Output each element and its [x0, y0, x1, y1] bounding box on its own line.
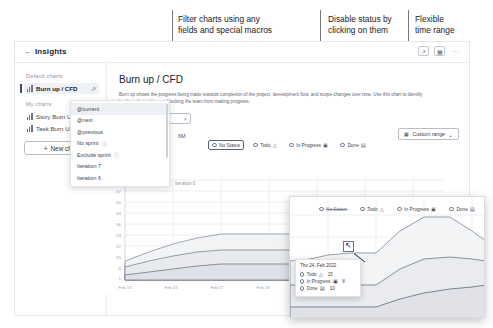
dropdown-item-iteration-7[interactable]: Iteration 7: [71, 161, 169, 173]
svg-text:43: 43: [116, 211, 121, 216]
inset-legend-item-done[interactable]: Done ▤: [446, 205, 478, 213]
tooltip-row-todo: Todo △ 15: [300, 271, 356, 278]
table-view-icon[interactable]: ▦: [434, 46, 445, 56]
legend-dot-icon: [300, 286, 304, 290]
annotation-range-line1: Flexible: [415, 14, 485, 25]
legend-label: Done: [347, 143, 358, 148]
tooltip-pattern-icon: ▤: [320, 286, 325, 291]
bar-chart-icon: [27, 86, 33, 92]
external-link-icon[interactable]: ↗: [91, 86, 96, 92]
legend-dot-icon: [253, 143, 258, 148]
legend-dot-icon: [397, 207, 402, 212]
svg-text:15: 15: [116, 255, 121, 260]
tooltip-label: Todo: [307, 272, 317, 277]
chart-y-ticks: 64 57 50 43 36 29 22 15 8 1: [116, 178, 121, 281]
filter-row: ▼ sprint 48 ×: [119, 113, 459, 124]
clear-filter-icon[interactable]: ×: [184, 116, 187, 122]
legend-pattern-icon: ▤: [470, 207, 475, 212]
annotation-filter: Filter charts using any fields and speci…: [178, 14, 306, 36]
back-to-insights[interactable]: ← Insights: [24, 47, 66, 56]
info-icon[interactable]: ⓘ: [102, 140, 107, 147]
inset-legend-item-in-progress[interactable]: In Progress ▣: [394, 205, 439, 213]
custom-range-button[interactable]: ▦ Custom range ⌄: [398, 128, 459, 140]
magnified-chart-inset[interactable]: No Status Todo △ In Progress ▣ Done ▤ ↖ …: [289, 196, 485, 318]
svg-text:50: 50: [116, 200, 121, 205]
annotation-range: Flexible time range: [415, 14, 485, 36]
chart-view-icon[interactable]: ↗: [418, 46, 429, 56]
inset-status-legend: No Status Todo △ In Progress ▣ Done ▤: [316, 205, 478, 213]
back-arrow-icon: ←: [24, 47, 32, 56]
legend-dot-icon: [300, 279, 304, 283]
more-options-icon[interactable]: ···: [450, 46, 461, 56]
legend-pattern-icon: ▣: [323, 143, 328, 148]
svg-text:Feb 18: Feb 18: [256, 285, 270, 290]
chevron-down-icon: ⌄: [448, 131, 453, 138]
tooltip-label: Done: [307, 286, 318, 291]
annotation-filter-line1: Filter charts using any: [178, 14, 306, 25]
legend-label: No Status: [219, 143, 240, 148]
legend-item-todo[interactable]: Todo △: [250, 141, 280, 149]
tooltip-value: 10: [330, 286, 335, 291]
annotation-range-line2: time range: [415, 25, 485, 36]
annotation-status-line1: Disable status by: [328, 14, 420, 25]
sidebar-item-label: Burn up / CFD: [36, 85, 78, 92]
app-topbar: ← Insights ↗ ▦ ···: [15, 42, 469, 63]
legend-dot-icon: [340, 143, 345, 148]
bar-chart-icon: [27, 114, 33, 120]
tooltip-pattern-icon: ▣: [333, 279, 338, 284]
calendar-icon: ▦: [404, 131, 409, 137]
legend-dot-icon: [449, 207, 454, 212]
legend-item-done[interactable]: Done ▤: [337, 141, 369, 149]
dropdown-item-label: Iteration 7: [77, 163, 101, 169]
inset-legend-item-todo[interactable]: Todo △: [357, 205, 387, 213]
legend-label: In Progress: [296, 143, 321, 148]
dropdown-item-label: Exclude sprint: [77, 152, 111, 158]
svg-text:57: 57: [116, 189, 121, 194]
time-range-6m[interactable]: 6M: [175, 130, 189, 141]
iteration-label: Iteration 6: [175, 181, 196, 186]
legend-label: Done: [456, 207, 467, 212]
tooltip-row-done: Done ▤ 10: [300, 285, 356, 292]
dropdown-item-label: @next: [77, 117, 93, 123]
svg-text:1: 1: [119, 276, 122, 281]
inset-legend-item-no-status[interactable]: No Status: [316, 205, 350, 213]
tooltip-row-in-progress: In Progress ▣ 8: [300, 278, 356, 285]
legend-dot-icon: [300, 272, 304, 276]
dropdown-scrollbar[interactable]: [166, 104, 168, 158]
dropdown-item-no-sprint[interactable]: No sprint ⓘ: [71, 138, 169, 150]
dropdown-item-current[interactable]: @current: [71, 103, 169, 115]
legend-item-no-status[interactable]: No Status: [208, 140, 244, 150]
mouse-cursor-icon: ↖: [345, 242, 352, 250]
svg-text:Feb 15: Feb 15: [118, 285, 132, 290]
tooltip-date: Thu 24, Feb 2022: [300, 263, 356, 268]
dropdown-item-next[interactable]: @next: [71, 115, 169, 127]
svg-text:Feb 16: Feb 16: [164, 285, 178, 290]
legend-label: Todo: [260, 143, 270, 148]
legend-item-in-progress[interactable]: In Progress ▣: [286, 141, 331, 149]
tooltip-value: 8: [342, 279, 345, 284]
chart-page-title: Burn up / CFD: [119, 74, 459, 85]
legend-label: No Status: [326, 207, 347, 212]
annotation-status: Disable status by clicking on them: [328, 14, 420, 36]
svg-text:Feb 17: Feb 17: [210, 285, 224, 290]
sidebar-group-title-default: Default charts: [26, 73, 99, 79]
status-legend: No Status Todo △ In Progress ▣ Done ▤: [208, 140, 369, 150]
filter-dropdown-menu: @current @next @previous No sprint ⓘ Exc…: [70, 100, 170, 187]
legend-label: Todo: [367, 207, 377, 212]
dropdown-item-previous[interactable]: @previous: [71, 126, 169, 138]
info-icon[interactable]: ⓘ: [114, 151, 119, 158]
tooltip-value: 15: [328, 272, 333, 277]
dropdown-item-label: @previous: [77, 129, 103, 135]
page-title: Insights: [35, 47, 66, 56]
legend-pattern-icon: ▣: [431, 207, 436, 212]
topbar-actions: ↗ ▦ ···: [418, 46, 461, 56]
dropdown-item-exclude-sprint[interactable]: Exclude sprint ⓘ: [71, 149, 169, 161]
tooltip-label: In Progress: [307, 279, 331, 284]
svg-text:8: 8: [119, 266, 122, 271]
legend-dot-icon: [289, 143, 294, 148]
inset-chart-svg: [290, 197, 485, 318]
dropdown-item-iteration-6[interactable]: Iteration 6: [71, 172, 169, 184]
svg-text:22: 22: [116, 244, 121, 249]
sidebar-item-burn-up-cfd[interactable]: Burn up / CFD ↗: [24, 83, 99, 94]
plus-icon: +: [44, 145, 48, 152]
